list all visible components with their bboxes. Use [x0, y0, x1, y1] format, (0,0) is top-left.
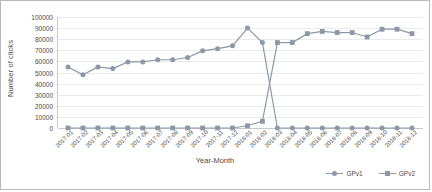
y-axis-tick: 0	[49, 125, 53, 132]
y-axis-tick: 50000	[35, 69, 53, 76]
data-point	[320, 29, 325, 34]
data-point	[260, 119, 265, 124]
legend-swatch	[379, 169, 396, 177]
data-point	[410, 31, 415, 36]
chart-container: Number of clicks 01000020000300004000050…	[0, 0, 430, 190]
data-point	[290, 40, 295, 45]
data-point	[80, 72, 85, 77]
y-axis-title-label: Number of clicks	[6, 40, 15, 97]
plot-area	[57, 17, 423, 128]
y-axis-tick: 40000	[35, 80, 53, 87]
series-layer	[58, 17, 424, 128]
data-point	[95, 64, 100, 69]
data-point	[110, 66, 115, 71]
data-point	[275, 40, 280, 45]
legend-marker-circle	[332, 171, 337, 176]
y-axis-tick: 90000	[35, 25, 53, 32]
data-point	[200, 48, 205, 53]
data-point	[140, 59, 145, 64]
data-point	[125, 59, 130, 64]
y-axis-tick: 30000	[35, 91, 53, 98]
data-point	[335, 30, 340, 35]
legend-swatch	[326, 169, 343, 177]
y-axis-tick: 20000	[35, 102, 53, 109]
series-gpv1	[66, 26, 415, 131]
data-point	[170, 57, 175, 62]
data-point	[66, 64, 71, 69]
legend-label: GPv2	[399, 170, 415, 177]
legend-label: GPv1	[346, 170, 362, 177]
series-line	[68, 28, 412, 128]
y-axis-title: Number of clicks	[3, 19, 17, 119]
y-axis-tick: 100000	[31, 14, 53, 21]
data-point	[185, 55, 190, 60]
data-point	[155, 57, 160, 62]
chart-legend: GPv1GPv2	[326, 169, 415, 177]
data-point	[365, 35, 370, 40]
x-axis-title: Year-Month	[1, 156, 429, 165]
data-point	[245, 123, 250, 128]
data-point	[395, 27, 400, 32]
x-axis-tick-labels: 2017-012017-022017-032017-042017-052017-…	[57, 129, 423, 159]
y-axis-tick: 60000	[35, 58, 53, 65]
y-axis-tick: 70000	[35, 47, 53, 54]
data-point	[245, 26, 250, 31]
data-point	[215, 46, 220, 51]
y-axis-tick: 10000	[35, 113, 53, 120]
legend-marker-square	[385, 171, 390, 176]
legend-item-gpv2[interactable]: GPv2	[379, 169, 415, 177]
data-point	[230, 43, 235, 48]
legend-item-gpv1[interactable]: GPv1	[326, 169, 362, 177]
data-point	[305, 31, 310, 36]
series-gpv2	[66, 27, 415, 131]
y-axis-tick: 80000	[35, 36, 53, 43]
data-point	[380, 27, 385, 32]
x-axis-title-label: Year-Month	[196, 156, 235, 165]
data-point	[260, 40, 265, 45]
series-line	[68, 29, 412, 128]
data-point	[350, 30, 355, 35]
